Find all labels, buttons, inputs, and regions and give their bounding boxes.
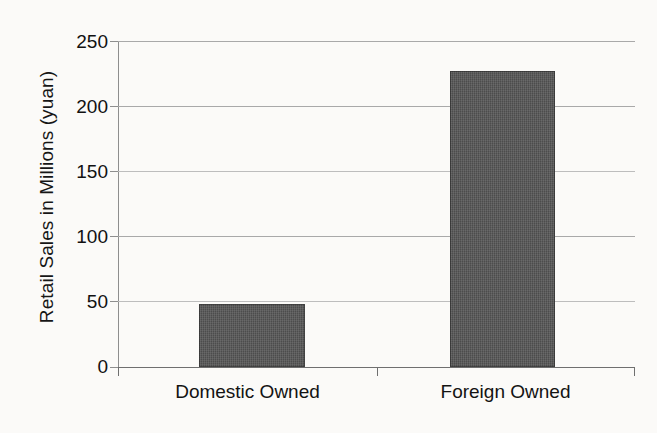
y-tick-label-200: 200 (48, 97, 108, 116)
y-tick-label-0: 0 (48, 357, 108, 376)
gridline-250 (118, 41, 635, 42)
bar-domestic-owned (199, 304, 305, 367)
gridline-150 (118, 171, 635, 172)
y-tick-label-50: 50 (48, 292, 108, 311)
x-tick-mark-middle (377, 367, 378, 376)
y-axis-tick-labels: 250 200 150 100 50 0 (40, 0, 108, 433)
x-category-label-domestic-owned: Domestic Owned (118, 381, 377, 403)
gridline-200 (118, 106, 635, 107)
x-category-label-foreign-owned: Foreign Owned (377, 381, 634, 403)
gridline-50 (118, 301, 635, 302)
y-tick-label-100: 100 (48, 227, 108, 246)
plot-area (118, 41, 635, 367)
y-tick-label-150: 150 (48, 162, 108, 181)
y-tick-label-250: 250 (48, 32, 108, 51)
bar-chart-figure: Retail Sales in Millions (yuan) 250 200 … (0, 0, 657, 433)
gridline-100 (118, 236, 635, 237)
x-tick-mark-right (634, 367, 635, 376)
x-tick-mark-left (118, 367, 119, 376)
bar-foreign-owned (450, 71, 555, 367)
